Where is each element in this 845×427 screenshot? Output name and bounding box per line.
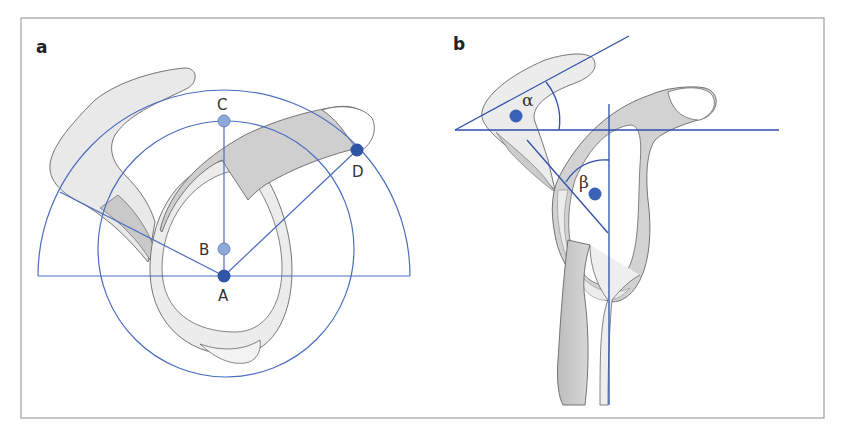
- label-A: A: [218, 287, 229, 305]
- acromion-axis: [455, 36, 629, 130]
- point-C: [218, 115, 230, 127]
- point-A: [218, 270, 231, 283]
- panel-b-label: b: [453, 34, 465, 54]
- panel-a: a C B A D: [36, 37, 410, 377]
- panel-a-label: a: [36, 37, 47, 57]
- alpha-label: α: [522, 90, 534, 110]
- beta-label: β: [579, 172, 589, 192]
- beta-point: [589, 188, 602, 201]
- point-B: [218, 243, 230, 255]
- label-C: C: [217, 96, 227, 114]
- alpha-point: [510, 110, 523, 123]
- label-D: D: [352, 163, 364, 181]
- panel-b: b α β: [453, 34, 779, 405]
- label-B: B: [199, 241, 209, 259]
- point-D: [351, 144, 364, 157]
- humerus-shaft: [557, 240, 590, 405]
- figure-canvas: a C B A D: [0, 0, 845, 427]
